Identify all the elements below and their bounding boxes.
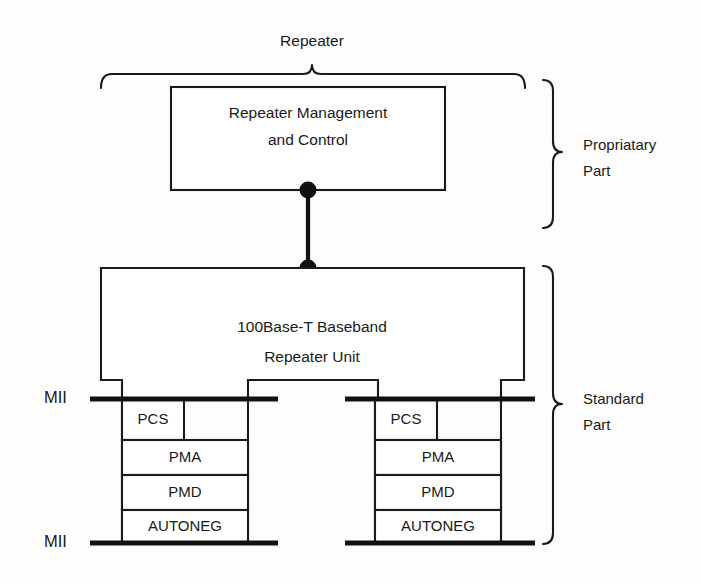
left-stack-layer-pmd: PMD [168,483,202,500]
right-stack-layer-pmd: PMD [421,483,455,500]
proprietary-part-label-line2: Part [583,162,611,179]
left-stack-layer-pcs: PCS [138,410,169,427]
standard-part-label-line1: Standard [583,390,644,407]
management-box-line2: and Control [268,131,348,148]
repeater-unit-line1: 100Base-T Baseband [237,318,387,335]
repeater-unit-line2: Repeater Unit [264,348,360,365]
proprietary-part-brace [543,80,562,228]
repeater-architecture-diagram: Repeater Repeater Management and Control… [0,0,701,584]
repeater-brace [101,65,525,88]
mii-top-label: MII [44,388,67,406]
connection-dot-upper [300,182,317,199]
left-stack-layer-pma: PMA [169,448,202,465]
proprietary-part-label-line1: Propriatary [583,136,657,153]
mii-bottom-label: MII [44,532,67,550]
management-bus-connector [300,182,317,277]
standard-part-brace [543,266,562,544]
right-stack-layer-pcs: PCS [391,410,422,427]
left-stack-layer-autoneg: AUTONEG [148,517,222,534]
standard-part-label-line2: Part [583,416,611,433]
diagram-canvas: Repeater Repeater Management and Control… [0,0,701,584]
repeater-title: Repeater [280,32,344,49]
management-box-line1: Repeater Management [229,104,388,121]
right-stack-layer-pma: PMA [422,448,455,465]
right-stack-layer-autoneg: AUTONEG [401,517,475,534]
